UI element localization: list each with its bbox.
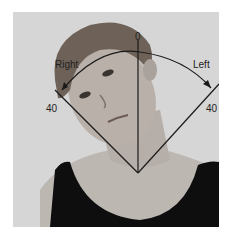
photo-frame: 0 Right Left 40 40	[13, 12, 219, 227]
right-angle-label: 40	[46, 104, 57, 114]
zero-degree-label: 0	[135, 32, 141, 42]
photo-illustration	[13, 12, 219, 227]
left-direction-label: Left	[193, 60, 210, 70]
right-direction-label: Right	[55, 60, 78, 70]
left-angle-label: 40	[206, 104, 217, 114]
